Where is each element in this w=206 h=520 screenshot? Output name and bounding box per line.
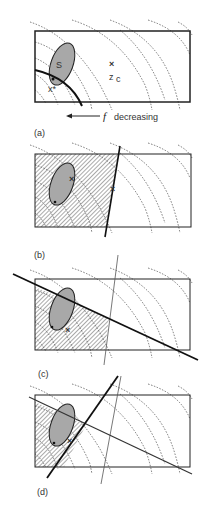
center-marker: × bbox=[65, 325, 70, 335]
panel-label-c: (c) bbox=[38, 369, 49, 379]
optimal-point bbox=[52, 78, 55, 81]
decreasing-label: decreasing bbox=[114, 112, 158, 122]
center-marker: × bbox=[109, 59, 114, 69]
z-label: z bbox=[109, 72, 114, 82]
center-marker: × bbox=[67, 436, 72, 446]
hatched-region bbox=[35, 154, 119, 227]
first-cut-line bbox=[101, 376, 121, 484]
optimal-point bbox=[53, 442, 56, 445]
optimal-point bbox=[51, 326, 54, 329]
panel-label-d: (d) bbox=[37, 487, 48, 497]
set-s-label: S bbox=[56, 60, 62, 70]
panel-label-b: (b) bbox=[34, 250, 45, 260]
f-symbol: f bbox=[103, 110, 108, 122]
panel-a: S x* × z c f decreasing (a) bbox=[30, 20, 192, 138]
z-subscript: c bbox=[116, 74, 121, 84]
arrow-head-icon bbox=[66, 114, 72, 119]
center-marker: × bbox=[110, 184, 115, 194]
figure-canvas: S x* × z c f decreasing (a) × × (b) × (c… bbox=[0, 0, 206, 520]
panel-label-a: (a) bbox=[34, 128, 45, 138]
panel-b: × × (b) bbox=[30, 143, 192, 260]
optimal-point bbox=[54, 201, 57, 204]
x-star-label: x* bbox=[48, 84, 57, 94]
previous-cut-line bbox=[104, 255, 118, 365]
query-marker: × bbox=[69, 174, 74, 184]
panel-d: × (d) bbox=[29, 376, 192, 497]
panel-c: × (c) bbox=[13, 255, 198, 379]
